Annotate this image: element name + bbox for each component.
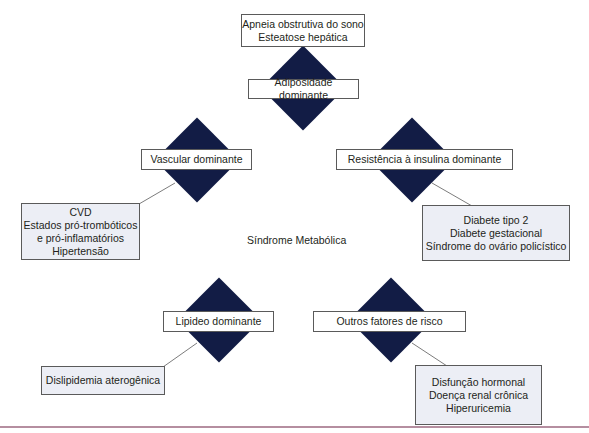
outcome-text: Diabete tipo 2	[464, 214, 529, 227]
outcome-text: Dislipidemia aterogênica	[46, 374, 160, 387]
outcome-box-vascular: CVD Estados pró-trombóticos e pró-inflam…	[21, 203, 140, 260]
outcome-text: Hiperuricemia	[446, 402, 511, 415]
node-label: Lipideo dominante	[176, 315, 262, 328]
outcome-box-adiposidade: Apneia obstrutiva do sono Esteatose hepá…	[241, 14, 365, 47]
label-box-resistencia: Resistência à insulina dominante	[336, 149, 513, 170]
outcome-text: Esteatose hepática	[258, 31, 347, 44]
label-box-adiposidade: Adiposidade dominante	[248, 79, 359, 99]
bottom-rule	[0, 426, 589, 428]
center-label: Síndrome Metabólica	[247, 234, 346, 246]
label-box-lipideo: Lipideo dominante	[163, 311, 274, 332]
outcome-box-outros: Disfunção hormonal Doença renal crônica …	[415, 365, 542, 425]
outcome-text: Apneia obstrutiva do sono	[242, 18, 363, 31]
connector-outros	[412, 343, 447, 366]
outcome-box-lipideo: Dislipidemia aterogênica	[41, 366, 165, 395]
connector-vascular	[139, 183, 175, 204]
outcome-text: e pró-inflamatórios	[37, 232, 124, 245]
outcome-text: CVD	[69, 206, 91, 219]
label-box-vascular: Vascular dominante	[141, 149, 252, 170]
node-label: Resistência à insulina dominante	[348, 153, 502, 166]
label-box-outros: Outros fatores de risco	[313, 311, 466, 332]
node-label: Vascular dominante	[150, 153, 242, 166]
outcome-text: Doença renal crônica	[429, 389, 528, 402]
connector-lipideo	[163, 343, 197, 367]
node-label: Outros fatores de risco	[336, 315, 442, 328]
outcome-text: Disfunção hormonal	[432, 376, 525, 389]
outcome-text: Estados pró-trombóticos	[24, 219, 138, 232]
outcome-text: Síndrome do ovário policístico	[426, 240, 567, 253]
outcome-text: Diabete gestacional	[450, 227, 542, 240]
outcome-text: Hipertensão	[52, 245, 109, 258]
outcome-box-resistencia: Diabete tipo 2 Diabete gestacional Síndr…	[422, 205, 570, 261]
node-label: Adiposidade dominante	[249, 76, 358, 102]
connector-resistencia	[432, 183, 472, 206]
